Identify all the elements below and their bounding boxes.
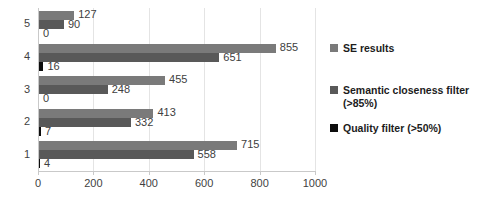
legend-swatch-icon <box>330 124 338 132</box>
bar-value-label: 90 <box>68 19 80 30</box>
x-axis-line <box>38 171 316 172</box>
bar <box>39 118 131 127</box>
legend-swatch-icon <box>330 44 338 52</box>
bar-value-label: 855 <box>280 42 298 53</box>
bar-value-label: 4 <box>44 158 50 169</box>
x-axis-tick-label: 1000 <box>293 178 337 189</box>
legend-item[interactable]: SE results <box>330 42 394 55</box>
x-axis-tick-label: 0 <box>16 178 60 189</box>
x-axis-tick-mark <box>149 171 150 175</box>
bar-value-label: 715 <box>241 139 259 150</box>
bar <box>39 76 165 85</box>
y-axis-tick-label: 5 <box>0 18 30 29</box>
bar-group: 4552480 <box>38 73 315 106</box>
legend-item-label: Quality filter (>50%) <box>343 122 441 135</box>
bar-value-label: 558 <box>198 149 216 160</box>
x-axis-tick-mark <box>38 171 39 175</box>
bar-value-label: 651 <box>223 52 241 63</box>
plot-area: 12790085565116455248041333277155584 <box>38 8 315 171</box>
bar-group: 4133327 <box>38 106 315 139</box>
legend-item[interactable]: Semantic closeness filter (>85%) <box>330 84 482 110</box>
bar-value-label: 127 <box>78 9 96 20</box>
bar <box>39 150 194 159</box>
x-axis-tick-mark <box>315 171 316 175</box>
y-axis-tick-label: 1 <box>0 149 30 160</box>
x-axis-tick-mark <box>204 171 205 175</box>
bar-group: 127900 <box>38 8 315 41</box>
legend-item-label: Semantic closeness filter (>85%) <box>343 84 482 110</box>
legend-item[interactable]: Quality filter (>50%) <box>330 122 441 135</box>
y-axis-tick-label: 2 <box>0 116 30 127</box>
bar-chart: 12790085565116455248041333277155584 5432… <box>0 0 484 203</box>
y-axis-tick-label: 3 <box>0 84 30 95</box>
bar-value-label: 332 <box>135 117 153 128</box>
bar-value-label: 455 <box>169 74 187 85</box>
bar-value-label: 0 <box>43 93 49 104</box>
bar-value-label: 16 <box>47 61 59 72</box>
x-axis-tick-label: 800 <box>238 178 282 189</box>
x-axis-tick-mark <box>260 171 261 175</box>
x-axis-tick-label: 600 <box>182 178 226 189</box>
bar-group: 85565116 <box>38 41 315 74</box>
bar-value-label: 248 <box>112 84 130 95</box>
bar <box>39 53 219 62</box>
bar <box>39 62 43 71</box>
legend-item-label: SE results <box>343 42 394 55</box>
x-axis-tick-label: 200 <box>71 178 115 189</box>
bar <box>39 127 41 136</box>
bar-value-label: 413 <box>157 107 175 118</box>
legend-swatch-icon <box>330 86 338 94</box>
plot-wrapper: 12790085565116455248041333277155584 5432… <box>0 0 320 203</box>
bar-value-label: 7 <box>45 126 51 137</box>
x-axis-tick-label: 400 <box>127 178 171 189</box>
gridline <box>315 8 316 171</box>
bar <box>39 85 108 94</box>
bar <box>39 159 40 168</box>
bar-value-label: 0 <box>43 28 49 39</box>
x-axis-tick-mark <box>93 171 94 175</box>
y-axis-tick-label: 4 <box>0 51 30 62</box>
bar-group: 7155584 <box>38 138 315 171</box>
